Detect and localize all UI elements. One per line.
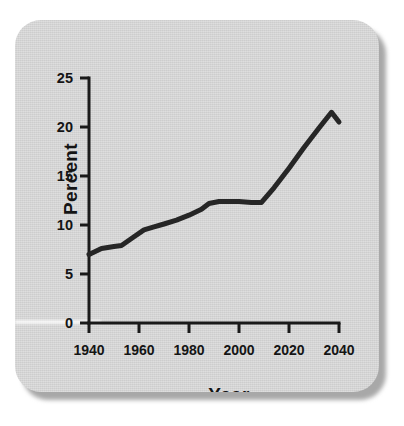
x-tick-label: 2000 — [223, 342, 254, 358]
x-axis-tick-labels: 194019601980200020202040 — [73, 342, 354, 358]
x-axis-title: Year — [103, 384, 355, 392]
x-tick-label: 1960 — [123, 342, 154, 358]
y-tick-label: 25 — [57, 70, 73, 86]
x-tick-label: 2020 — [273, 342, 304, 358]
x-tick-label: 1980 — [173, 342, 204, 358]
y-tick-label: 5 — [65, 266, 73, 282]
y-tick-label: 0 — [65, 315, 73, 331]
figure-root: 0510152025 194019601980200020202040 Perc… — [0, 0, 404, 426]
data-series-line — [89, 112, 339, 254]
x-tick-label: 1940 — [73, 342, 104, 358]
y-axis-title: Percent — [60, 119, 82, 239]
x-tick-label: 2040 — [323, 342, 354, 358]
chart-card: 0510152025 194019601980200020202040 Perc… — [15, 20, 379, 392]
